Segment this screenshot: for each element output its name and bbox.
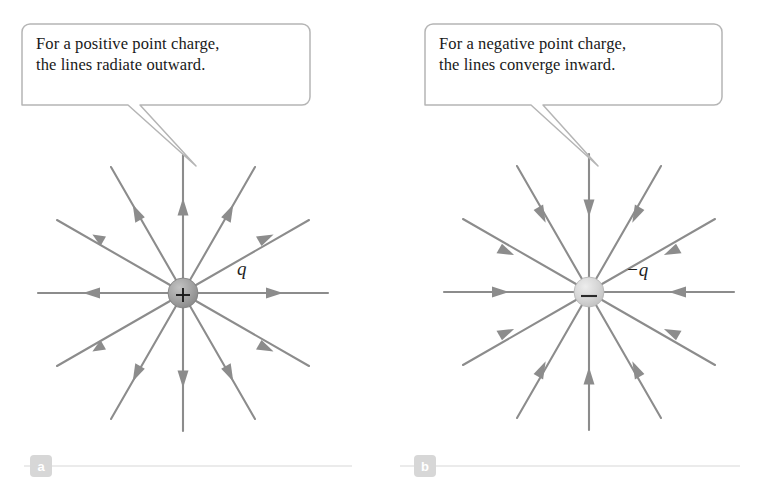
field-line: [602, 300, 715, 365]
field-arrow-icon: [497, 329, 515, 340]
field-line: [602, 219, 715, 284]
callout-b-text: For a negative point charge, the lines c…: [439, 33, 626, 75]
charge-label-q: q: [237, 258, 247, 279]
field-line: [517, 166, 582, 279]
field-line: [111, 167, 176, 280]
panel-b-charge: [574, 277, 604, 307]
field-arrow-icon: [584, 367, 595, 385]
field-arrow-icon: [178, 198, 189, 216]
field-arrow-icon: [664, 244, 682, 255]
panel-badge-a-label: a: [37, 459, 45, 474]
charge-label-minus-q: −q: [626, 259, 649, 280]
field-arrow-icon: [221, 205, 233, 223]
callout-b-line1: For a negative point charge,: [439, 34, 626, 53]
field-arrow-icon: [221, 363, 233, 381]
field-line: [57, 301, 170, 366]
field-arrow-icon: [632, 361, 644, 379]
field-line: [517, 305, 582, 418]
field-line: [111, 306, 176, 419]
callout-a-line1: For a positive point charge,: [36, 34, 220, 53]
field-arrow-icon: [664, 329, 682, 340]
field-arrow-icon: [497, 244, 515, 255]
field-arrow-icon: [492, 287, 509, 298]
panel-a-charge: [168, 278, 198, 308]
field-arrow-icon: [178, 370, 189, 388]
field-line: [196, 220, 309, 285]
field-line: [463, 219, 576, 284]
field-line: [196, 301, 309, 366]
field-arrow-icon: [534, 205, 546, 223]
panel-badge-b-label: b: [421, 459, 429, 474]
field-arrow-icon: [632, 205, 644, 223]
field-line: [57, 220, 170, 285]
callout-a-line2: the lines radiate outward.: [36, 54, 220, 75]
field-line: [596, 305, 661, 418]
field-arrow-icon: [266, 288, 283, 299]
field-arrow-icon: [133, 205, 145, 223]
callout-a-text: For a positive point charge, the lines r…: [36, 33, 220, 75]
field-arrow-icon: [83, 288, 100, 299]
field-line: [463, 300, 576, 365]
field-arrow-icon: [584, 199, 595, 217]
field-line: [190, 306, 255, 419]
panel-b-footer: b: [400, 455, 740, 477]
panel-a-footer: a: [24, 455, 352, 477]
electric-field-lines-figure: q: [0, 0, 762, 492]
callout-b-line2: the lines converge inward.: [439, 54, 626, 75]
field-arrow-icon: [669, 287, 686, 298]
field-arrow-icon: [534, 361, 546, 379]
field-arrow-icon: [133, 363, 145, 381]
